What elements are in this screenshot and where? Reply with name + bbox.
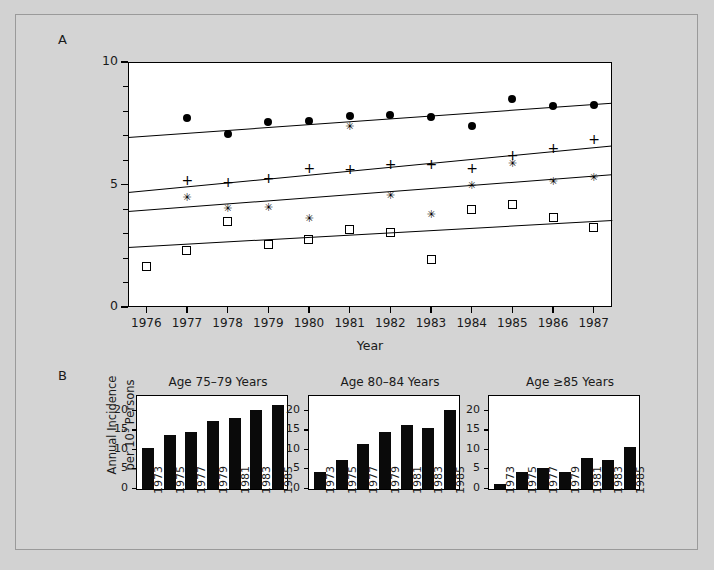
panel-b-x-tick-label: 1977 — [547, 466, 560, 494]
panel-b-y-tick — [484, 488, 488, 489]
panel-a-data-point-circle — [468, 122, 476, 130]
panel-a-data-point-star: ✳ — [466, 180, 477, 191]
panel-b-x-tick-label: 1983 — [260, 466, 273, 494]
panel-b-y-tick — [304, 468, 308, 469]
panel-b-x-tick-label: 1973 — [324, 466, 337, 494]
panel-a-x-tick-label: 1981 — [328, 316, 372, 330]
panel-a-x-tick — [308, 307, 309, 313]
panel-a-data-point-plus: + — [466, 163, 477, 174]
panel-b-y-tick-label: 20 — [110, 403, 128, 416]
panel-b-x-tick-label: 1977 — [367, 466, 380, 494]
panel-a-data-point-star: ✳ — [222, 203, 233, 214]
panel-b-x-tick-label: 1981 — [411, 466, 424, 494]
panel-a-x-tick-label: 1987 — [572, 316, 616, 330]
panel-a-x-tick — [268, 307, 269, 313]
figure-root: A Annual Incidence per 105 Persons 05101… — [0, 0, 714, 570]
panel-a-data-point-plus: + — [385, 159, 396, 170]
panel-a-data-point-star: ✳ — [303, 213, 314, 224]
panel-b-subchart-3: Age ≥85 Years197319751977197919811983198… — [470, 365, 670, 565]
panel-b-y-tick — [304, 429, 308, 430]
panel-a-x-tick-label: 1980 — [287, 316, 331, 330]
panel-a-data-point-plus: + — [426, 159, 437, 170]
panel-b-x-tick-label: 1985 — [634, 466, 647, 494]
panel-a-x-tick-label: 1985 — [490, 316, 534, 330]
panel-b-letter: B — [58, 368, 67, 383]
panel-a-y-tick-label: 10 — [86, 53, 118, 68]
panel-b-subchart-title: Age 75–79 Years — [118, 375, 318, 389]
panel-b-y-tick — [304, 410, 308, 411]
panel-b-y-tick — [484, 429, 488, 430]
panel-a-data-point-circle — [590, 101, 598, 109]
panel-a-x-tick — [227, 307, 228, 313]
panel-b-y-tick-label: 5 — [110, 461, 128, 474]
panel-a: A Annual Incidence per 105 Persons 05101… — [0, 0, 714, 365]
panel-a-x-tick — [552, 307, 553, 313]
panel-b-y-tick — [484, 410, 488, 411]
panel-a-data-point-square — [304, 235, 313, 244]
panel-b-y-tick — [304, 488, 308, 489]
panel-b-y-tick — [132, 429, 136, 430]
panel-b-y-tick-label: 15 — [282, 422, 300, 435]
panel-a-data-point-star: ✳ — [548, 176, 559, 187]
panel-b-y-tick — [304, 449, 308, 450]
panel-b-y-tick-label: 10 — [462, 442, 480, 455]
panel-a-x-tick-label: 1983 — [409, 316, 453, 330]
panel-a-y-tick-minor — [123, 258, 128, 259]
panel-a-data-point-square — [549, 213, 558, 222]
panel-a-y-tick-major — [121, 184, 128, 185]
panel-a-data-point-square — [427, 255, 436, 264]
panel-b-y-tick-label: 20 — [462, 403, 480, 416]
panel-a-y-tick-minor — [123, 209, 128, 210]
panel-a-data-point-star: ✳ — [344, 121, 355, 132]
panel-a-data-point-star: ✳ — [507, 158, 518, 169]
panel-b-y-tick-label: 0 — [462, 481, 480, 494]
panel-b-y-tick — [132, 468, 136, 469]
panel-a-data-point-plus: + — [303, 163, 314, 174]
panel-a-y-tick-minor — [123, 86, 128, 87]
panel-a-data-point-circle — [346, 112, 354, 120]
panel-a-data-point-square — [182, 246, 191, 255]
panel-b-x-tick-label: 1975 — [346, 466, 359, 494]
panel-a-y-tick-label: 0 — [86, 298, 118, 313]
panel-a-x-tick-label: 1978 — [206, 316, 250, 330]
panel-b-x-tick-label: 1973 — [152, 466, 165, 494]
panel-a-y-tick-minor — [123, 160, 128, 161]
panel-a-x-tick-label: 1984 — [450, 316, 494, 330]
panel-a-x-tick-label: 1986 — [531, 316, 575, 330]
panel-b-subchart-title: Age 80–84 Years — [290, 375, 490, 389]
panel-b-x-tick-label: 1979 — [569, 466, 582, 494]
panel-a-data-point-circle — [386, 111, 394, 119]
panel-a-data-point-plus: + — [263, 173, 274, 184]
panel-a-data-point-square — [345, 225, 354, 234]
panel-b-x-tick-label: 1979 — [389, 466, 402, 494]
panel-b-x-tick-label: 1979 — [217, 466, 230, 494]
panel-b-y-tick-label: 5 — [282, 461, 300, 474]
panel-a-x-tick — [349, 307, 350, 313]
panel-a-x-tick — [593, 307, 594, 313]
panel-a-x-tick — [146, 307, 147, 313]
panel-a-x-tick — [430, 307, 431, 313]
panel-a-x-tick — [186, 307, 187, 313]
panel-a-data-point-star: ✳ — [426, 209, 437, 220]
panel-a-data-point-square — [264, 240, 273, 249]
panel-a-y-tick-minor — [123, 282, 128, 283]
panel-a-data-point-star: ✳ — [181, 192, 192, 203]
panel-a-y-tick-major — [121, 61, 128, 62]
panel-a-x-tick — [471, 307, 472, 313]
panel-a-x-tick-label: 1982 — [368, 316, 412, 330]
panel-b-y-tick-label: 5 — [462, 461, 480, 474]
panel-b-y-tick-label: 20 — [282, 403, 300, 416]
panel-a-data-point-plus: + — [181, 175, 192, 186]
panel-a-x-tick-label: 1977 — [165, 316, 209, 330]
panel-b-x-tick-label: 1977 — [195, 466, 208, 494]
panel-a-x-axis-title: Year — [128, 338, 612, 353]
panel-a-y-tick-minor — [123, 111, 128, 112]
panel-b-y-tick-label: 10 — [110, 442, 128, 455]
panel-b: B Annual Incidence per 105 Persons Age 7… — [0, 365, 714, 570]
panel-a-data-point-square — [142, 262, 151, 271]
panel-a-data-point-square — [386, 228, 395, 237]
panel-b-y-tick — [132, 449, 136, 450]
panel-b-x-tick-label: 1983 — [612, 466, 625, 494]
panel-a-data-point-plus: + — [344, 164, 355, 175]
panel-b-y-tick-label: 10 — [282, 442, 300, 455]
